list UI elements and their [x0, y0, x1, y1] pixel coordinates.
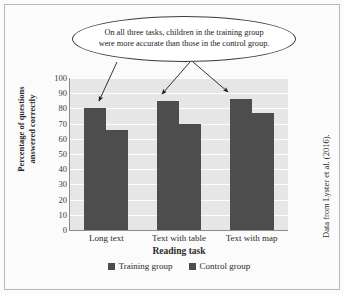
source-caption: Data from Lyster et al. (2016). [321, 108, 331, 238]
gridline [70, 78, 288, 79]
y-axis-tick-label: 90 [45, 89, 67, 97]
callout-text-line2: were more accurate than those in the con… [90, 38, 278, 49]
gridline [70, 93, 288, 94]
legend-label: Training group [119, 261, 173, 271]
y-axis-line [69, 78, 70, 231]
y-axis-title: Percentage of questions answered correct… [16, 69, 38, 189]
y-axis-tick-label: 80 [45, 104, 67, 112]
y-axis-tick-label: 30 [45, 180, 67, 188]
y-axis-tick-label: 40 [45, 165, 67, 173]
bar-control-group-long-text [106, 130, 128, 230]
legend-swatch-icon [108, 263, 115, 270]
figure-container: Percentage of questions answered correct… [0, 0, 344, 294]
bar-training-group-long-text [84, 108, 106, 230]
y-axis-tick-label: 70 [45, 120, 67, 128]
chart-legend: Training groupControl group [70, 261, 288, 271]
callout-text-line1: On all three tasks, children in the trai… [90, 27, 278, 38]
x-axis-ticks: Long textText with tableText with map [70, 233, 288, 247]
y-axis-tick-label: 20 [45, 196, 67, 204]
y-axis-title-line2: answered correctly [27, 69, 38, 189]
legend-swatch-icon [189, 263, 196, 270]
legend-item-training-group: Training group [108, 261, 173, 271]
y-axis-tick-label: 100 [45, 74, 67, 82]
y-axis-tick-label: 50 [45, 150, 67, 158]
x-axis-tick-label: Long text [70, 233, 143, 243]
x-axis-line [69, 230, 288, 231]
x-axis-tick-label: Text with map [215, 233, 288, 243]
callout-text: On all three tasks, children in the trai… [90, 27, 278, 49]
callout-annotation: On all three tasks, children in the trai… [72, 16, 296, 62]
legend-item-control-group: Control group [189, 261, 251, 271]
bar-control-group-text-with-table [179, 124, 201, 230]
x-axis-tick-label: Text with table [143, 233, 216, 243]
x-axis-title: Reading task [70, 246, 288, 256]
bar-control-group-text-with-map [252, 113, 274, 230]
y-axis-tick-label: 10 [45, 211, 67, 219]
y-axis-tick-label: 60 [45, 135, 67, 143]
y-axis-ticks: 1009080706050403020100 [42, 78, 67, 230]
legend-label: Control group [200, 261, 251, 271]
bar-training-group-text-with-table [157, 101, 179, 230]
y-axis-tick-label: 0 [45, 226, 67, 234]
y-axis-title-line1: Percentage of questions [16, 69, 27, 189]
bar-training-group-text-with-map [230, 99, 252, 230]
plot-area [70, 78, 288, 230]
